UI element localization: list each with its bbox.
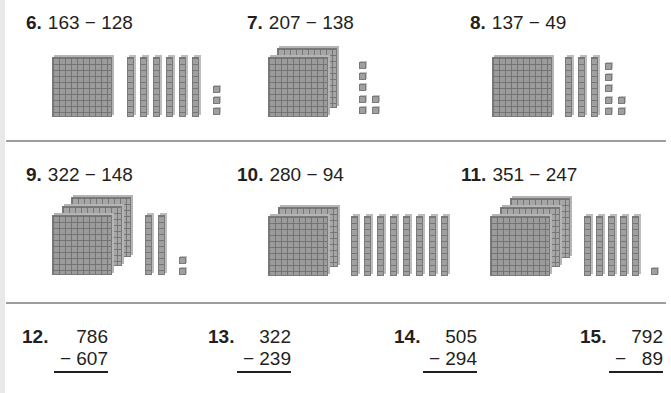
one-cube <box>605 97 612 104</box>
problem-number: 15. <box>580 326 606 348</box>
subtrahend: − 607 <box>54 348 108 373</box>
problem-label: 8.137 − 49 <box>470 13 566 33</box>
ten-rod <box>441 216 448 276</box>
ten-rod <box>377 216 384 276</box>
problem-number: 14. <box>394 326 420 348</box>
one-cube <box>359 62 366 69</box>
page-margin-strip <box>0 0 5 393</box>
subtrahend: − 89 <box>609 348 663 373</box>
one-cube <box>359 107 366 114</box>
ten-rod <box>166 57 173 117</box>
subtrahend: − 294 <box>423 348 477 373</box>
one-cube <box>179 268 186 275</box>
minuend: 786 <box>76 326 108 348</box>
problem-11: 11.351 − 247 <box>461 165 577 185</box>
one-cube <box>372 96 379 103</box>
ten-rod <box>390 216 397 276</box>
problem-label: 10.280 − 94 <box>237 165 344 185</box>
problem-number: 8. <box>470 12 486 33</box>
ten-rod <box>140 57 147 117</box>
ten-rod <box>608 216 615 276</box>
hundred-flat <box>52 215 112 275</box>
problem-label: 7.207 − 138 <box>247 13 354 33</box>
one-cube <box>605 108 612 115</box>
ten-rod <box>153 57 160 117</box>
ten-rod <box>403 216 410 276</box>
ten-rod <box>632 216 639 276</box>
problem-8: 8.137 − 49 <box>470 13 566 33</box>
ten-rod <box>620 216 627 276</box>
ten-rod <box>364 216 371 276</box>
ten-rod <box>584 216 591 276</box>
problem-number: 13. <box>208 326 234 348</box>
section-divider <box>6 302 666 304</box>
problem-expression: 280 − 94 <box>269 164 344 185</box>
hundred-flat <box>268 216 328 276</box>
subtrahend: − 239 <box>237 348 291 373</box>
minuend: 505 <box>445 326 477 348</box>
one-cube <box>213 97 220 104</box>
problem-14: 14. 505 − 294 <box>394 326 477 376</box>
ten-rod <box>578 57 585 117</box>
ten-rod <box>429 216 436 276</box>
one-cube <box>179 257 186 264</box>
ten-rod <box>127 57 134 117</box>
ten-rod <box>351 216 358 276</box>
problem-9: 9.322 − 148 <box>26 165 133 185</box>
one-cube <box>618 108 625 115</box>
problem-label: 9.322 − 148 <box>26 165 133 185</box>
problem-6: 6.163 − 128 <box>26 13 133 33</box>
problem-expression: 137 − 49 <box>492 12 567 33</box>
problem-number: 6. <box>26 12 42 33</box>
minuend: 322 <box>259 326 291 348</box>
one-cube <box>213 108 220 115</box>
ten-rod <box>591 57 598 117</box>
problem-number: 12. <box>22 326 48 348</box>
ten-rod <box>416 216 423 276</box>
section-divider <box>6 140 666 142</box>
problem-expression: 351 − 247 <box>492 164 577 185</box>
hundred-flat <box>490 216 550 276</box>
one-cube <box>359 73 366 80</box>
ten-rod <box>565 57 572 117</box>
problem-number: 9. <box>26 164 42 185</box>
hundred-flat <box>492 57 552 117</box>
one-cube <box>605 85 612 92</box>
problem-number: 11. <box>461 164 486 185</box>
ten-rod <box>158 215 165 275</box>
problem-7: 7.207 − 138 <box>247 13 354 33</box>
ten-rod <box>192 57 199 117</box>
one-cube <box>618 97 625 104</box>
problem-expression: 163 − 128 <box>48 12 133 33</box>
problem-expression: 322 − 148 <box>48 164 133 185</box>
ten-rod <box>179 57 186 117</box>
problem-15: 15. 792 − 89 <box>580 326 663 376</box>
problem-expression: 207 − 138 <box>269 12 354 33</box>
problem-number: 10. <box>237 164 263 185</box>
problem-12: 12. 786 − 607 <box>22 326 108 376</box>
one-cube <box>359 96 366 103</box>
one-cube <box>359 84 366 91</box>
one-cube <box>605 63 612 70</box>
one-cube <box>372 107 379 114</box>
problem-label: 11.351 − 247 <box>461 165 577 185</box>
hundred-flat <box>268 57 328 117</box>
minuend: 792 <box>631 326 663 348</box>
ten-rod <box>596 216 603 276</box>
problem-number: 7. <box>247 12 263 33</box>
one-cube <box>605 74 612 81</box>
problem-13: 13. 322 − 239 <box>208 326 291 376</box>
hundred-flat <box>52 57 112 117</box>
one-cube <box>213 86 220 93</box>
ten-rod <box>145 215 152 275</box>
problem-label: 6.163 − 128 <box>26 13 133 33</box>
one-cube <box>651 268 658 275</box>
problem-10: 10.280 − 94 <box>237 165 344 185</box>
